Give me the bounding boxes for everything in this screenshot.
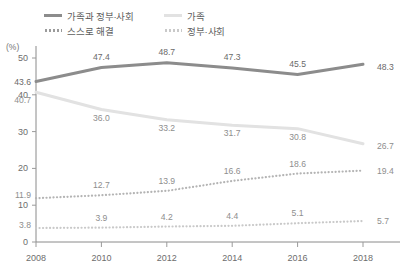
data-value-label: 11.9: [15, 190, 31, 200]
data-value-label: 33.2: [158, 123, 175, 133]
data-value-label: 47.3: [224, 52, 241, 62]
data-value-label: 18.6: [289, 159, 306, 169]
data-value-label: 5.1: [292, 208, 304, 218]
line-chart: 가족과 정부·사회 가족 스스로 해결 정부·사회 (%) 0102030405…: [0, 0, 406, 275]
series-line-3: [36, 221, 363, 228]
data-value-label: 12.7: [93, 180, 110, 190]
series-line-2: [36, 171, 363, 199]
x-axis-tick-label: 2010: [91, 253, 111, 263]
y-axis-tick-label: 10: [18, 200, 28, 210]
data-value-label: 30.8: [289, 132, 306, 142]
data-value-label: 3.9: [95, 213, 107, 223]
data-value-label: 16.6: [224, 166, 241, 176]
data-value-label: 26.7: [377, 141, 394, 151]
x-axis-tick-label: 2018: [353, 253, 373, 263]
y-axis-tick-label: 0: [23, 237, 28, 247]
x-axis-tick-label: 2014: [222, 253, 242, 263]
data-value-label: 48.3: [377, 62, 394, 72]
data-value-label: 13.9: [158, 176, 175, 186]
data-value-label: 40.7: [14, 95, 31, 105]
y-axis-tick-label: 30: [18, 127, 28, 137]
data-value-label: 36.0: [93, 113, 110, 123]
chart-plot-area: 0102030405020082010201220142016201843.64…: [0, 0, 406, 275]
series-line-0: [36, 63, 363, 82]
x-axis-tick-label: 2008: [26, 253, 46, 263]
data-value-label: 47.4: [93, 52, 110, 62]
data-value-label: 5.7: [377, 216, 389, 226]
data-value-label: 31.7: [224, 128, 241, 138]
y-axis-tick-label: 20: [18, 163, 28, 173]
y-axis-tick-label: 50: [18, 53, 28, 63]
data-value-label: 4.4: [226, 211, 238, 221]
data-value-label: 3.8: [19, 220, 31, 230]
data-value-label: 4.2: [161, 212, 173, 222]
data-value-label: 43.6: [14, 77, 31, 87]
data-value-label: 45.5: [289, 59, 306, 69]
x-axis-tick-label: 2016: [288, 253, 308, 263]
series-line-1: [36, 92, 363, 144]
x-axis-tick-label: 2012: [157, 253, 177, 263]
data-value-label: 19.4: [377, 166, 394, 176]
data-value-label: 48.7: [158, 47, 175, 57]
